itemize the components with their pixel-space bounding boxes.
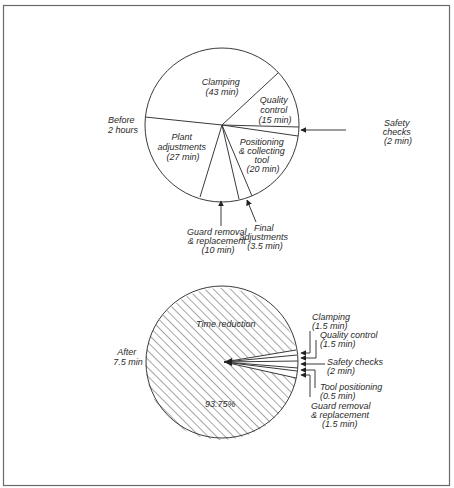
- label-quality-control: Quality control (15 min): [258, 95, 291, 125]
- label-plant-adjustments: Plant adjustments (27 min): [157, 132, 208, 162]
- label-bottom-quality: Quality control (1.5 min): [320, 330, 380, 349]
- label-bottom-tool: Tool positioning (0.5 min): [320, 382, 385, 401]
- slice-boundary-plant-clamping: [145, 117, 222, 125]
- label-percent: 93.75%: [205, 399, 236, 409]
- arrow-tool-positioning: [301, 370, 315, 388]
- arrow-final-adjustments: [247, 200, 256, 222]
- slice-boundary-positioning-final: [222, 125, 252, 196]
- slice-boundary-guard-plant: [200, 125, 222, 197]
- label-bottom-safety: Safety checks (2 min): [327, 357, 386, 376]
- label-time-reduction: Time reduction: [196, 319, 255, 329]
- label-bottom-clamping: Clamping (1.5 min): [312, 312, 353, 331]
- label-positioning: Positioning & collecting tool (20 min): [239, 137, 288, 174]
- pie-after: After 7.5 min Time reduction 93.75% Clam…: [113, 286, 385, 440]
- pie-before: Before 2 hours Clamping (43 min) Quality…: [107, 48, 413, 255]
- arrow-quality-control: [301, 340, 316, 358]
- label-before: Before 2 hours: [107, 115, 139, 135]
- label-after: After 7.5 min: [113, 347, 143, 367]
- arrow-clamping: [301, 331, 310, 353]
- chart-canvas: Before 2 hours Clamping (43 min) Quality…: [0, 0, 454, 488]
- label-clamping: Clamping (43 min): [202, 77, 243, 97]
- figure: Before 2 hours Clamping (43 min) Quality…: [0, 0, 454, 488]
- time-reduction-region: [145, 288, 296, 440]
- label-safety-checks: Safety checks (2 min): [383, 118, 414, 146]
- slice-boundary-final-guard: [222, 125, 239, 199]
- label-bottom-guard: Guard removal & replacement (1.5 min): [311, 401, 373, 429]
- arrow-guard-removal-after: [301, 375, 310, 397]
